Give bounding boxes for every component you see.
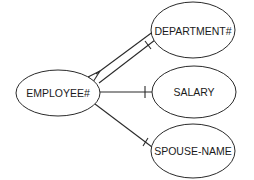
one-bar-icon [145,41,151,49]
node-spouse-name: SPOUSE-NAME [151,124,235,178]
edge-employee-spouse [95,104,152,147]
node-label: EMPLOYEE# [26,87,90,99]
er-diagram: EMPLOYEE# DEPARTMENT# SALARY SPOUSE-NAME [0,0,254,180]
node-label: SALARY [173,86,214,98]
edge-employee-department-many [88,31,154,82]
edge-employee-department-one [99,40,155,83]
node-department: DEPARTMENT# [151,2,235,58]
node-label: SPOUSE-NAME [154,145,232,157]
node-label: DEPARTMENT# [154,25,231,37]
node-salary: SALARY [152,66,236,118]
edge-employee-salary [100,86,152,98]
one-bar-icon [143,138,148,146]
node-employee: EMPLOYEE# [16,70,100,116]
